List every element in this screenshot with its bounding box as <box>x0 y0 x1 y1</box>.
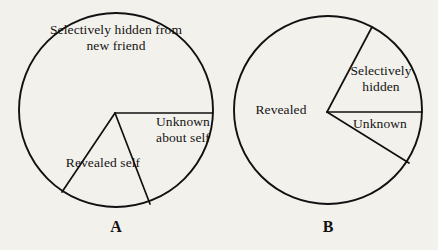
label-b-unknown: Unknown <box>340 116 420 132</box>
figure-root: Selectively hidden from new friend Revea… <box>0 0 438 250</box>
label-a-unknown-about-self: Unknown about self <box>147 114 219 146</box>
panel-letter-b: B <box>308 218 348 236</box>
label-a-revealed-self: Revealed self <box>57 155 149 171</box>
label-a-selectively-hidden: Selectively hidden from new friend <box>40 22 192 54</box>
panel-letter-a: A <box>96 218 136 236</box>
wedge-edge-a-revealed-left <box>62 113 115 192</box>
label-b-selectively-hidden: Selectively hidden <box>340 63 422 95</box>
label-b-revealed: Revealed <box>238 102 324 118</box>
